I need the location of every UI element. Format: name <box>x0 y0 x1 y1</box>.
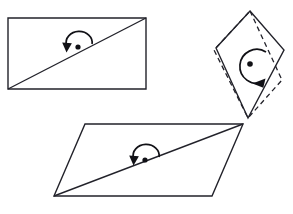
kite-arrow-head-icon <box>253 79 266 88</box>
parallelogram-rotation-arc <box>133 144 159 158</box>
rectangle-center-dot <box>75 44 80 49</box>
figure-kite <box>214 11 284 118</box>
parallelogram-diagonal <box>54 124 243 196</box>
rectangle-rotation-arc <box>66 31 92 45</box>
rectangle-diagonal <box>8 18 146 89</box>
rectangle-arrow-head-icon <box>62 42 72 52</box>
figure-parallelogram <box>54 124 243 196</box>
geometry-figure-canvas <box>0 0 293 214</box>
kite-center-dot <box>247 61 253 67</box>
figure-rectangle <box>8 18 146 89</box>
kite-rotation-arc <box>240 49 266 83</box>
parallelogram-center-dot <box>142 157 147 162</box>
